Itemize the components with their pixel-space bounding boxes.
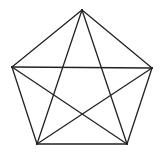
diagonal-edge-left-bottom-right xyxy=(12,67,127,144)
side-edge-left-top xyxy=(12,10,82,67)
vertex-left xyxy=(11,66,13,68)
diagonal-edge-top-bottom-left xyxy=(37,10,82,144)
vertex-top xyxy=(81,9,83,11)
edges-group xyxy=(11,9,153,145)
vertex-right xyxy=(151,67,153,69)
vertex-bottom-right xyxy=(126,143,128,145)
vertex-bottom-left xyxy=(36,143,38,145)
diagonal-edge-top-bottom-right xyxy=(82,10,127,144)
diagonal-edge-left-right xyxy=(12,67,152,68)
pentagon-diagram xyxy=(0,0,164,152)
diagonal-edge-right-bottom-left xyxy=(37,68,152,144)
side-edge-top-right xyxy=(82,10,152,68)
side-edge-bottom-left-left xyxy=(12,67,37,144)
side-edge-right-bottom-right xyxy=(127,68,152,144)
